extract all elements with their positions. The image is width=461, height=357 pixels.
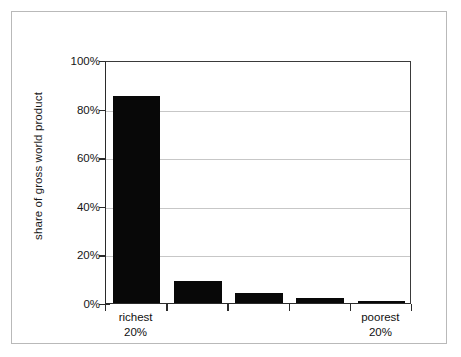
bar <box>113 96 161 303</box>
x-tick-mark <box>411 304 412 311</box>
y-tick-label: 40% <box>54 201 100 213</box>
x-label-line2: 20% <box>105 325 166 340</box>
y-tick-label: 20% <box>54 249 100 261</box>
y-tick-label: 80% <box>54 104 100 116</box>
x-tick-mark <box>166 304 167 311</box>
x-tick-mark <box>227 304 228 311</box>
y-tick-label: 100% <box>54 55 100 67</box>
x-axis-category-label-richest: richest 20% <box>105 310 166 340</box>
x-axis-category-label-poorest: poorest 20% <box>350 310 411 340</box>
x-label-line1: poorest <box>350 310 411 325</box>
bar <box>174 281 222 303</box>
x-label-line1: richest <box>105 310 166 325</box>
y-axis-title: share of gross world product <box>32 66 44 266</box>
bar <box>296 298 344 303</box>
y-tick-label: 0% <box>54 298 100 310</box>
x-tick-mark <box>289 304 290 311</box>
plot-area <box>105 61 411 304</box>
y-axis-tick-labels: 100% 80% 60% 40% 20% 0% <box>50 61 100 304</box>
bar <box>235 293 283 303</box>
bar-chart: share of gross world product 100% 80% 60… <box>0 0 461 357</box>
bar <box>358 301 406 303</box>
y-tick-label: 60% <box>54 152 100 164</box>
x-label-line2: 20% <box>350 325 411 340</box>
